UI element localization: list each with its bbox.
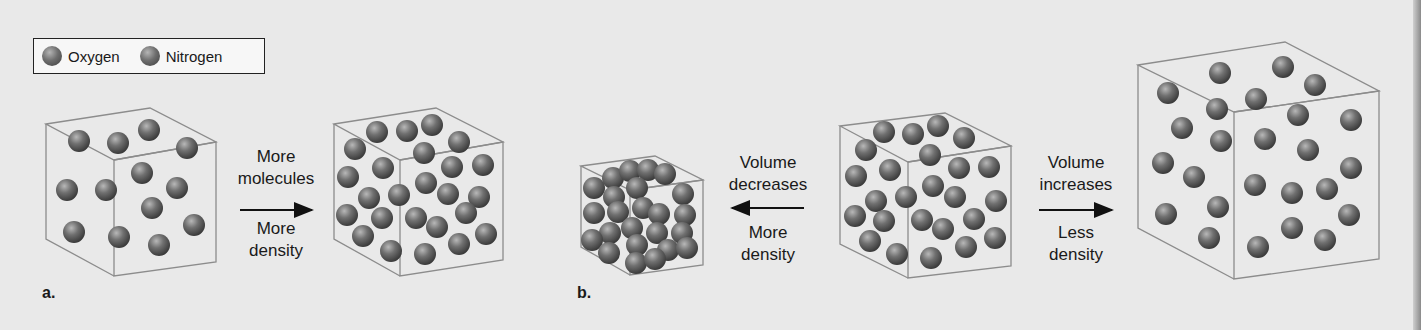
label-line: More — [226, 218, 326, 240]
label-line: density — [226, 240, 326, 262]
label-line: Less — [1026, 222, 1126, 244]
label-line: density — [718, 244, 818, 266]
arrow-b-right-bottom-label: Less density — [1026, 222, 1126, 266]
molecules-b-expanded — [1152, 56, 1362, 258]
label-line: increases — [1026, 174, 1126, 196]
arrow-b-left-top-label: Volume decreases — [718, 152, 818, 196]
molecules-a1 — [56, 119, 205, 256]
arrow-a-top-label: More molecules — [226, 146, 326, 190]
label-line: More — [718, 222, 818, 244]
diagram-canvas — [0, 0, 1421, 330]
panel-label-b: b. — [577, 284, 591, 302]
panel-label-a: a. — [42, 284, 55, 302]
label-line: molecules — [226, 168, 326, 190]
label-line: More — [226, 146, 326, 168]
label-line: Volume — [718, 152, 818, 174]
arrow-b-right-top-label: Volume increases — [1026, 152, 1126, 196]
arrow-b-left-bottom-label: More density — [718, 222, 818, 266]
molecules-a2 — [336, 114, 497, 265]
molecules-b-original — [844, 115, 1007, 269]
arrow-a-bottom-label: More density — [226, 218, 326, 262]
label-line: density — [1026, 244, 1126, 266]
label-line: decreases — [718, 174, 818, 196]
label-line: Volume — [1026, 152, 1126, 174]
